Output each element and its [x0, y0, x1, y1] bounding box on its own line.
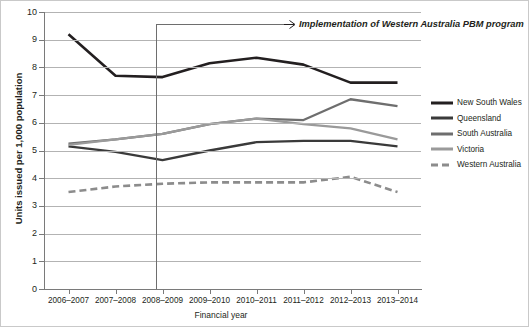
y-tick-label: 3 — [9, 201, 37, 210]
y-tick-label: 4 — [9, 174, 37, 183]
y-tick-label: 7 — [9, 91, 37, 100]
gridline — [45, 40, 421, 41]
x-tick — [257, 290, 258, 294]
gridline — [45, 151, 421, 152]
x-tick-label: 2013–2014 — [377, 296, 418, 305]
x-tick-label: 2007–2008 — [95, 296, 136, 305]
y-tick — [39, 12, 44, 13]
x-tick — [163, 290, 164, 294]
plot-area — [45, 12, 421, 289]
legend-swatch-icon — [431, 160, 453, 170]
x-tick — [116, 290, 117, 294]
chart-figure: Units issued per 1,000 population 012345… — [0, 0, 529, 327]
gridline — [45, 234, 421, 235]
legend-swatch-icon — [431, 98, 453, 108]
legend-swatch-icon — [431, 144, 453, 154]
legend-label: Queensland — [457, 114, 501, 123]
x-tick-label: 2006–2007 — [48, 296, 89, 305]
y-tick-label: 5 — [9, 146, 37, 155]
y-tick-label: 6 — [9, 118, 37, 127]
gridline — [45, 289, 421, 290]
x-tick — [210, 290, 211, 294]
legend-item[interactable]: Western Australia — [431, 157, 529, 173]
y-tick-label: 1 — [9, 257, 37, 266]
y-tick — [39, 151, 44, 152]
legend-label: Western Australia — [457, 160, 521, 169]
gridline — [45, 206, 421, 207]
legend-item[interactable]: Victoria — [431, 142, 529, 158]
legend-item[interactable]: New South Wales — [431, 95, 529, 111]
legend-item[interactable]: Queensland — [431, 111, 529, 127]
y-tick — [39, 261, 44, 262]
chart-legend: New South WalesQueenslandSouth Australia… — [431, 95, 529, 173]
y-tick — [39, 67, 44, 68]
x-tick-label: 2010–2011 — [236, 296, 276, 305]
y-tick — [39, 95, 44, 96]
gridline — [45, 95, 421, 96]
gridline — [45, 12, 421, 13]
x-axis-title: Financial year — [1, 310, 441, 320]
x-tick — [69, 290, 70, 294]
y-tick — [39, 123, 44, 124]
y-tick-label: 10 — [9, 8, 37, 17]
legend-swatch-icon — [431, 113, 453, 123]
y-tick — [39, 234, 44, 235]
y-tick-label: 9 — [9, 35, 37, 44]
annotation-leader-line — [156, 24, 288, 25]
legend-swatch-icon — [431, 129, 453, 139]
legend-label: New South Wales — [457, 98, 522, 107]
gridline — [45, 261, 421, 262]
gridline — [45, 67, 421, 68]
y-tick — [39, 178, 44, 179]
y-tick-label: 8 — [9, 63, 37, 72]
y-tick-label: 2 — [9, 229, 37, 238]
y-tick — [39, 289, 44, 290]
x-tick-label: 2011–2012 — [283, 296, 323, 305]
legend-item[interactable]: South Australia — [431, 126, 529, 142]
y-tick-label: 0 — [9, 285, 37, 294]
x-tick-label: 2008–2009 — [142, 296, 183, 305]
y-tick — [39, 40, 44, 41]
gridline — [45, 178, 421, 179]
annotation-vertical-line — [156, 24, 157, 289]
y-tick — [39, 206, 44, 207]
arrow-right-icon — [284, 19, 296, 30]
x-tick-label: 2012–2013 — [330, 296, 371, 305]
x-tick — [304, 290, 305, 294]
series-line — [69, 34, 398, 82]
x-tick — [351, 290, 352, 294]
annotation-label: Implementation of Western Australia PBM … — [299, 19, 524, 29]
legend-label: South Australia — [457, 129, 512, 138]
x-tick-label: 2009–2010 — [189, 296, 230, 305]
legend-label: Victoria — [457, 145, 484, 154]
x-tick — [398, 290, 399, 294]
gridline — [45, 123, 421, 124]
